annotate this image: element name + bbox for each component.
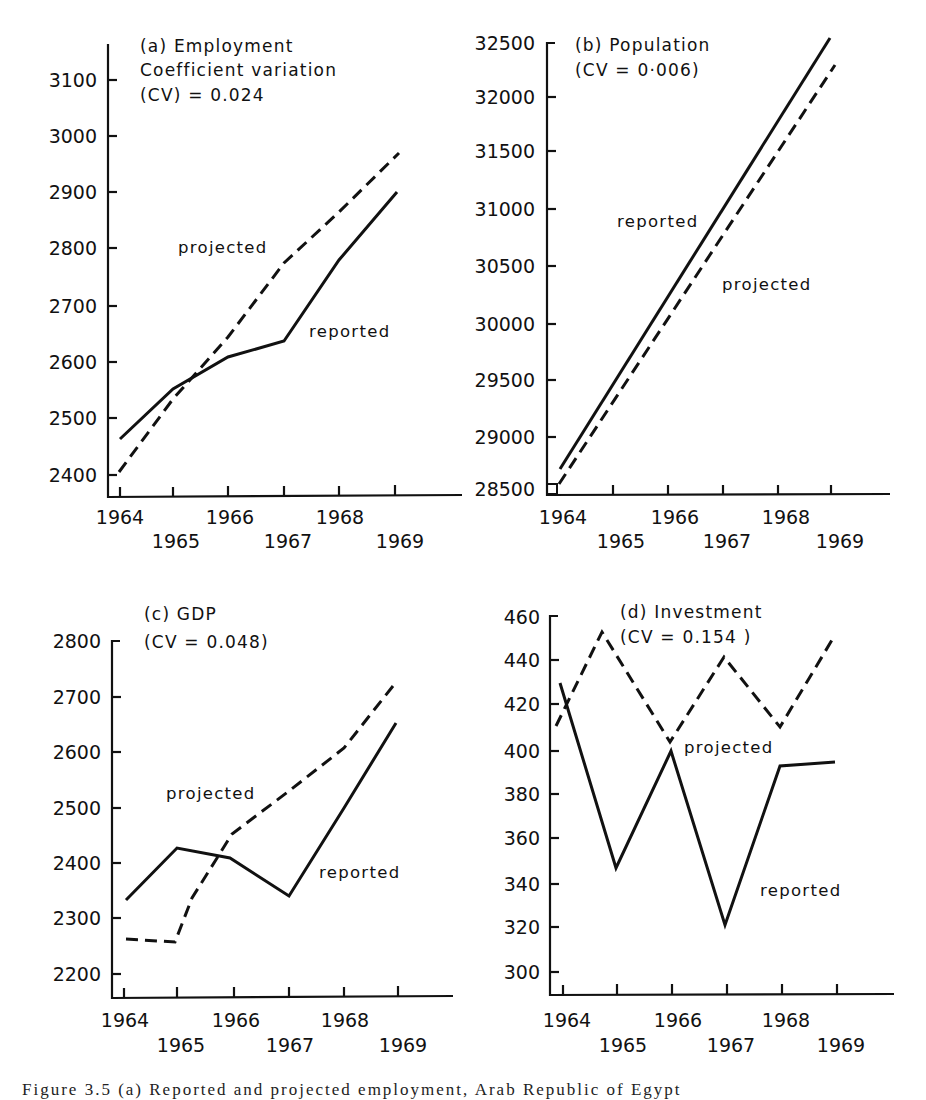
y-tick-label: 2600 — [53, 741, 101, 763]
y-tick-label: 30000 — [475, 313, 535, 335]
panel-c-axes — [112, 641, 453, 998]
panel-c-gdp: 2800 2700 2600 2500 2400 2300 2200 1964 … — [53, 604, 453, 1056]
y-tick-label: 320 — [504, 916, 540, 938]
x-tick-label: 1964 — [101, 1009, 149, 1031]
x-tick-label: 1964 — [96, 506, 144, 528]
x-tick-label: 1964 — [543, 1009, 591, 1031]
x-tick-label: 1967 — [703, 530, 751, 552]
y-tick-label: 2400 — [49, 464, 97, 486]
figure-caption: Figure 3.5 (a) Reported and projected em… — [22, 1080, 682, 1100]
x-tick-label: 1966 — [654, 1009, 702, 1031]
y-tick-label: 32000 — [475, 86, 535, 108]
panel-b-title: (b) Population — [575, 35, 711, 55]
y-tick-label: 2300 — [53, 907, 101, 929]
x-tick-label: 1967 — [707, 1034, 755, 1056]
y-tick-label: 29500 — [475, 369, 535, 391]
x-tick-label: 1965 — [157, 1034, 205, 1056]
panel-a-y-tick-labels: 3100 3000 2900 2800 2700 2600 2500 2400 — [49, 69, 97, 486]
panel-b-axes — [547, 43, 890, 495]
x-tick-label: 1966 — [212, 1009, 260, 1031]
x-tick-label: 1969 — [816, 530, 864, 552]
panel-c-y-ticks — [112, 697, 121, 974]
y-tick-label: 420 — [504, 693, 540, 715]
y-tick-label: 400 — [504, 740, 540, 762]
panel-d-projected-line — [556, 632, 835, 742]
panel-c-label-reported: reported — [319, 863, 400, 882]
x-tick-label: 1969 — [376, 530, 424, 552]
panel-b-cv: (CV = 0·006) — [575, 60, 700, 80]
panel-a-title: (a) Employment — [140, 36, 294, 56]
x-tick-label: 1964 — [539, 506, 587, 528]
panel-d-investment: 460 440 420 400 380 360 340 320 300 1964… — [504, 602, 894, 1056]
x-tick-label: 1968 — [762, 506, 810, 528]
x-tick-label: 1967 — [266, 1034, 314, 1056]
y-tick-label: 3100 — [49, 69, 97, 91]
panel-b-y-tick-labels: 32500 32000 31500 31000 30500 30000 2950… — [475, 32, 535, 500]
panel-a-y-ticks — [108, 80, 117, 475]
panel-b-population: 32500 32000 31500 31000 30500 30000 2950… — [475, 32, 890, 552]
panel-c-x-tick-labels: 1964 1966 1968 1965 1967 1969 — [101, 1009, 427, 1056]
panel-b-label-projected: projected — [722, 275, 812, 294]
panel-c-cv: (CV = 0.048) — [144, 632, 269, 652]
x-tick-label: 1969 — [379, 1034, 427, 1056]
panel-a-employment: 3100 3000 2900 2800 2700 2600 2500 2400 … — [49, 36, 462, 552]
panel-c-title: (c) GDP — [144, 604, 217, 624]
panel-d-title: (d) Investment — [620, 602, 763, 622]
panel-c-projected-line — [126, 686, 393, 942]
y-tick-label: 2500 — [49, 407, 97, 429]
x-tick-label: 1965 — [152, 530, 200, 552]
y-tick-label: 30500 — [475, 255, 535, 277]
y-tick-label: 29000 — [475, 426, 535, 448]
y-tick-label: 2200 — [53, 963, 101, 985]
x-tick-label: 1968 — [321, 1009, 369, 1031]
y-tick-label: 2800 — [53, 630, 101, 652]
y-tick-label: 3000 — [49, 125, 97, 147]
x-tick-label: 1968 — [762, 1009, 810, 1031]
x-tick-label: 1966 — [206, 506, 254, 528]
panel-a-projected-line — [119, 153, 399, 472]
panel-d-x-tick-labels: 1964 1966 1968 1965 1967 1969 — [543, 1009, 865, 1056]
panel-a-label-reported: reported — [309, 322, 390, 341]
panel-d-axes — [550, 616, 894, 995]
x-tick-label: 1968 — [316, 506, 364, 528]
y-tick-label: 2500 — [53, 797, 101, 819]
panel-b-label-reported: reported — [617, 212, 698, 231]
y-tick-label: 31000 — [475, 198, 535, 220]
y-tick-label: 460 — [504, 606, 540, 628]
panel-a-axes — [108, 44, 462, 497]
panel-d-cv: (CV = 0.154 ) — [620, 627, 752, 647]
y-tick-label: 440 — [504, 649, 540, 671]
y-tick-label: 32500 — [475, 32, 535, 54]
y-tick-label: 2400 — [53, 852, 101, 874]
y-tick-label: 380 — [504, 783, 540, 805]
x-tick-label: 1969 — [817, 1034, 865, 1056]
x-tick-label: 1966 — [651, 506, 699, 528]
panel-d-y-tick-labels: 460 440 420 400 380 360 340 320 300 — [504, 606, 540, 983]
x-tick-label: 1967 — [264, 530, 312, 552]
y-tick-label: 2600 — [49, 351, 97, 373]
y-tick-label: 300 — [504, 961, 540, 983]
panel-a-x-tick-labels: 1964 1966 1968 1965 1967 1969 — [96, 506, 424, 552]
panel-b-reported-line — [560, 38, 830, 469]
panel-d-label-projected: projected — [684, 738, 774, 757]
x-tick-label: 1965 — [597, 530, 645, 552]
y-tick-label: 2800 — [49, 237, 97, 259]
y-tick-label: 2700 — [49, 295, 97, 317]
panel-a-label-projected: projected — [178, 238, 268, 257]
panel-d-y-ticks — [550, 660, 559, 972]
y-tick-label: 340 — [504, 873, 540, 895]
y-tick-label: 360 — [504, 827, 540, 849]
panel-a-reported-line — [120, 192, 397, 439]
panel-c-label-projected: projected — [166, 784, 256, 803]
panel-c-y-tick-labels: 2800 2700 2600 2500 2400 2300 2200 — [53, 630, 101, 985]
panel-d-label-reported: reported — [760, 881, 841, 900]
y-tick-label: 31500 — [475, 140, 535, 162]
y-tick-label: 2700 — [53, 686, 101, 708]
panel-a-cv: (CV) = 0.024 — [140, 85, 265, 105]
panel-b-y-ticks — [547, 97, 557, 494]
y-tick-label: 28500 — [475, 478, 535, 500]
y-tick-label: 2900 — [49, 181, 97, 203]
panel-a-subtitle: Coefficient variation — [140, 60, 337, 80]
panel-b-x-tick-labels: 1964 1966 1968 1965 1967 1969 — [539, 506, 864, 552]
